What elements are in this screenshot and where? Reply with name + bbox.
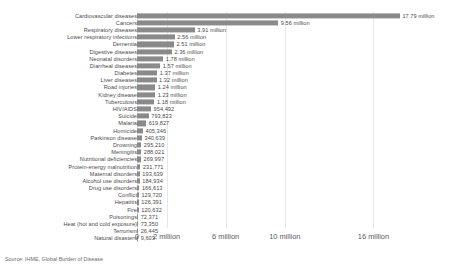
value-label: 954,492 xyxy=(154,106,175,112)
bar-row: Lower respiratory infections2.56 million xyxy=(0,34,457,41)
bar-row: Cancers9.56 million xyxy=(0,19,457,26)
axis-tick-label: 6 million xyxy=(212,232,239,241)
value-label: 2.51 million xyxy=(177,41,206,47)
category-label: Nutritional deficiencies xyxy=(80,156,137,162)
value-label: 166,613 xyxy=(142,185,163,191)
category-label: Neonatal disorders xyxy=(89,56,137,62)
bar xyxy=(137,157,141,162)
value-label: 1.24 million xyxy=(158,84,187,90)
axis-tick-label: 16 million xyxy=(358,232,389,241)
value-label: 1.23 million xyxy=(158,92,187,98)
value-label: 295,210 xyxy=(144,142,165,148)
category-label: Fire xyxy=(127,207,137,213)
value-label: 231,771 xyxy=(143,164,164,170)
bar-row: Digestive diseases2.36 million xyxy=(0,48,457,55)
bar-row: Maternal disorders193,639 xyxy=(0,170,457,177)
bar xyxy=(137,200,139,205)
bar-row: Poisonings72,371 xyxy=(0,213,457,220)
bar-rows: Cardiovascular diseases17.79 millionCanc… xyxy=(0,12,457,242)
bar xyxy=(137,106,151,111)
bar-row: Meningitis288,021 xyxy=(0,149,457,156)
x-axis: 02 million6 million10 million16 million xyxy=(0,232,457,248)
bar xyxy=(137,13,400,18)
bar-row: Suicide793,823 xyxy=(0,113,457,120)
value-label: 405,346 xyxy=(145,128,166,134)
bar xyxy=(137,42,174,47)
category-label: Diarrheal diseases xyxy=(90,63,137,69)
bar xyxy=(137,214,138,219)
category-label: Diabetes xyxy=(115,70,137,76)
value-label: 1.18 million xyxy=(157,99,186,105)
category-label: Respiratory diseases xyxy=(84,27,137,33)
value-label: 120,632 xyxy=(141,207,162,213)
value-label: 184,934 xyxy=(142,178,163,184)
category-label: Suicide xyxy=(118,113,137,119)
value-label: 2.56 million xyxy=(177,34,206,40)
value-label: 2.36 million xyxy=(174,49,203,55)
bar-row: Diabetes1.37 million xyxy=(0,70,457,77)
bar xyxy=(137,221,138,226)
category-label: HIV/AIDS xyxy=(113,106,137,112)
bar xyxy=(137,35,175,40)
value-label: 619,827 xyxy=(149,120,170,126)
bar-row: Respiratory diseases3.91 million xyxy=(0,26,457,33)
value-label: 73,350 xyxy=(141,221,158,227)
bar xyxy=(137,178,140,183)
value-label: 9.56 million xyxy=(281,20,310,26)
bar xyxy=(137,63,160,68)
bar-row: Homicide405,346 xyxy=(0,127,457,134)
bar xyxy=(137,121,146,126)
value-label: 129,720 xyxy=(141,192,162,198)
bar-row: Nutritional deficiencies269,997 xyxy=(0,156,457,163)
bar-row: Hepatitis126,391 xyxy=(0,199,457,206)
category-label: Heat (hot and cold exposure) xyxy=(63,221,137,227)
bar xyxy=(137,114,149,119)
category-label: Drug use disorders xyxy=(89,185,137,191)
value-label: 793,823 xyxy=(151,113,172,119)
axis-tick-label: 10 million xyxy=(269,232,300,241)
bar xyxy=(137,99,154,104)
bar xyxy=(137,49,172,54)
value-label: 1.57 million xyxy=(163,63,192,69)
bar xyxy=(137,20,278,25)
category-label: Kidney disease xyxy=(98,92,137,98)
category-label: Drowning xyxy=(113,142,137,148)
bar xyxy=(137,27,195,32)
category-label: Homicide xyxy=(113,128,137,134)
bar xyxy=(137,128,143,133)
bar-row: Tuberculosis1.18 million xyxy=(0,98,457,105)
bar-row: Dementia2.51 million xyxy=(0,41,457,48)
bar xyxy=(137,78,157,83)
bar xyxy=(137,193,139,198)
category-label: Digestive diseases xyxy=(89,49,137,55)
bar xyxy=(137,150,141,155)
bar-row: Road injuries1.24 million xyxy=(0,84,457,91)
category-label: Lower respiratory infections xyxy=(67,34,137,40)
value-label: 193,639 xyxy=(142,171,163,177)
bar-row: Drug use disorders166,613 xyxy=(0,185,457,192)
value-label: 126,391 xyxy=(141,199,162,205)
category-label: Maternal disorders xyxy=(90,171,137,177)
value-label: 1.78 million xyxy=(166,56,195,62)
chart-container: Cardiovascular diseases17.79 millionCanc… xyxy=(0,0,457,269)
bar-row: Kidney disease1.23 million xyxy=(0,91,457,98)
value-label: 1.32 million xyxy=(159,77,188,83)
category-label: Liver diseases xyxy=(101,77,137,83)
category-label: Protein-energy malnutrition xyxy=(68,164,137,170)
bar-row: Neonatal disorders1.78 million xyxy=(0,55,457,62)
bar xyxy=(137,56,163,61)
value-label: 17.79 million xyxy=(402,13,434,19)
bar-row: Diarrheal diseases1.57 million xyxy=(0,62,457,69)
category-label: Hepatitis xyxy=(115,199,137,205)
value-label: 288,021 xyxy=(144,149,165,155)
axis-tick-label: 2 million xyxy=(153,232,180,241)
value-label: 3.91 million xyxy=(197,27,226,33)
bar-row: Cardiovascular diseases17.79 million xyxy=(0,12,457,19)
bar xyxy=(137,164,140,169)
bar-row: Fire120,632 xyxy=(0,206,457,213)
bar xyxy=(137,186,139,191)
bar-row: Liver diseases1.32 million xyxy=(0,77,457,84)
plot-area: Cardiovascular diseases17.79 millionCanc… xyxy=(0,12,457,228)
bar xyxy=(137,135,142,140)
bar-row: Drowning295,210 xyxy=(0,141,457,148)
